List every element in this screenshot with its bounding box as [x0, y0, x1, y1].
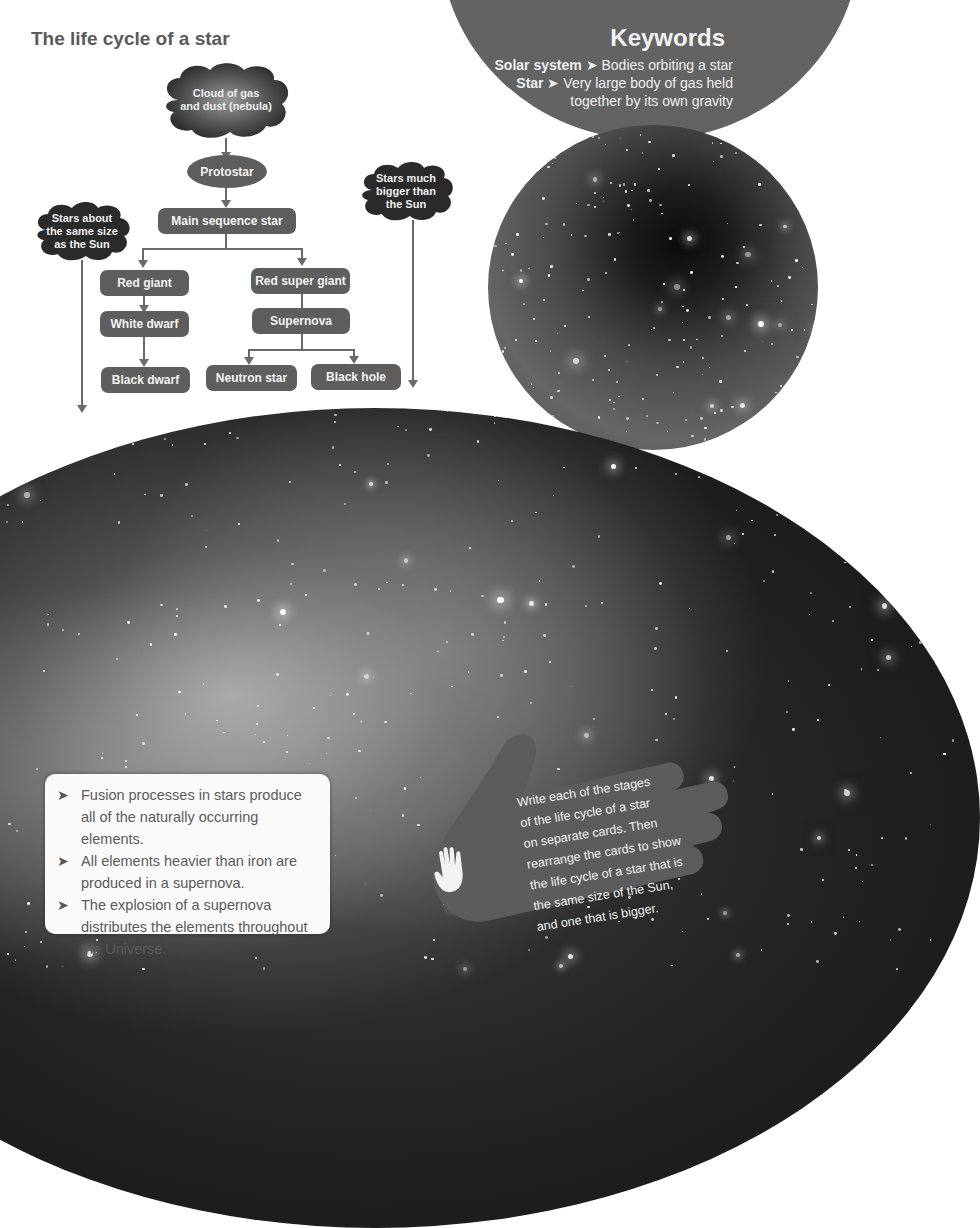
star-dot [775, 392, 776, 393]
star-dot [327, 737, 329, 739]
star-dot [277, 539, 279, 541]
star-dot [671, 965, 672, 966]
star-dot [813, 446, 814, 447]
star-dot [355, 797, 357, 799]
star-dot [437, 651, 438, 652]
star-dot [545, 603, 547, 605]
star-dot [704, 427, 706, 429]
star-dot [927, 524, 930, 527]
star-dot [758, 321, 764, 327]
star-dot [8, 823, 10, 825]
star-dot [539, 580, 541, 582]
star-dot [427, 454, 430, 457]
star-dot [861, 555, 864, 558]
label-line: the same size [46, 225, 118, 237]
star-dot [787, 914, 790, 917]
star-dot [771, 280, 773, 282]
star-dot [424, 956, 427, 959]
star-dot [568, 954, 573, 959]
star-dot [524, 670, 527, 673]
star-dot [404, 558, 408, 562]
star-dot [809, 614, 810, 615]
star-dot [791, 329, 793, 331]
star-dot [783, 225, 787, 229]
star-dot [397, 426, 398, 427]
star-dot [871, 864, 873, 866]
star-dot [890, 939, 892, 941]
star-dot [450, 590, 451, 591]
star-dot [974, 656, 975, 657]
star-dot [585, 605, 587, 607]
star-dot [549, 661, 551, 663]
arrow-down-icon [139, 359, 149, 367]
star-dot [263, 967, 265, 969]
star-dot [861, 668, 862, 669]
star-dot [364, 674, 369, 679]
star-dot [468, 671, 469, 672]
star-dot [755, 423, 757, 425]
star-dot [803, 427, 804, 428]
star-dot [655, 627, 658, 630]
star-dot [204, 443, 206, 445]
nebula-label-line1: Cloud of gas [193, 87, 260, 99]
star-dot [774, 534, 776, 536]
star-dot [795, 406, 800, 411]
star-dot [667, 431, 668, 432]
star-dot [216, 720, 218, 722]
star-dot [808, 209, 811, 212]
star-dot [749, 139, 751, 141]
star-dot [335, 855, 336, 856]
star-dot [431, 958, 433, 960]
star-dot [691, 435, 694, 438]
star-dot [236, 437, 238, 439]
star-dot [7, 953, 9, 955]
star-dot [238, 523, 239, 524]
star-dot [16, 830, 18, 832]
star-dot [6, 521, 8, 523]
star-dot [24, 492, 30, 498]
star-dot [761, 949, 762, 950]
star-dot [494, 422, 495, 423]
star-dot [205, 546, 207, 548]
star-dot [116, 658, 118, 660]
star-dot [704, 438, 706, 440]
star-dot [365, 883, 366, 884]
star-dot [759, 224, 761, 226]
star-dot [224, 605, 227, 608]
star-dot [367, 632, 370, 635]
star-dot [290, 583, 292, 585]
connector [301, 294, 303, 308]
star-dot [781, 300, 782, 301]
arrow-down-icon [138, 260, 148, 268]
star-dot [309, 763, 310, 764]
star-dot [434, 588, 437, 591]
star-dot [863, 418, 864, 419]
label-line: Stars about [52, 212, 113, 224]
star-dot [953, 503, 955, 505]
fact-item: ➤ Fusion processes in stars produce all … [55, 784, 320, 850]
star-dot [118, 521, 120, 523]
star-dot [611, 464, 616, 469]
star-dot [781, 447, 783, 449]
star-dot [497, 597, 504, 604]
star-dot [925, 437, 927, 439]
star-dot [816, 365, 818, 367]
star-dot [127, 621, 130, 624]
star-dot [881, 837, 883, 839]
star-dot [956, 687, 959, 690]
star-dot [635, 467, 637, 469]
star-dot [769, 143, 771, 145]
label-line: Stars much [376, 172, 436, 184]
supernova-node: Supernova [252, 308, 350, 334]
star-dot [844, 790, 850, 796]
star-dot [62, 966, 63, 967]
star-dot [794, 428, 796, 430]
star-dot [286, 751, 288, 753]
star-dot [43, 670, 45, 672]
star-dot [280, 609, 286, 615]
star-dot [530, 702, 532, 704]
star-dot [559, 964, 563, 968]
star-dot [811, 921, 812, 922]
star-dot [864, 515, 867, 518]
arrow-bullet-icon: ➤ [57, 850, 69, 872]
